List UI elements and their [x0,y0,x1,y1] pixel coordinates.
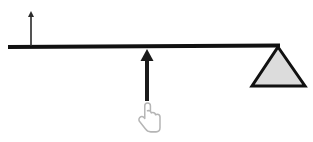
load-motion-arrow-shaft [30,15,32,46]
lever-diagram-svg: Lever with fulcrum, applied force arrow … [0,0,313,142]
hand-pointer-cursor[interactable] [139,103,160,132]
lever-bar [8,46,280,48]
load-motion-arrow-head [28,11,34,17]
applied-force-arrow-shaft [145,59,149,101]
applied-force-arrow [141,49,154,101]
applied-force-arrow-head [141,49,154,61]
load-motion-arrow [28,11,34,46]
hand-pointer-cursor-shape [139,103,160,132]
lever-diagram-canvas: Lever with fulcrum, applied force arrow … [0,0,313,142]
fulcrum-triangle [252,47,305,86]
